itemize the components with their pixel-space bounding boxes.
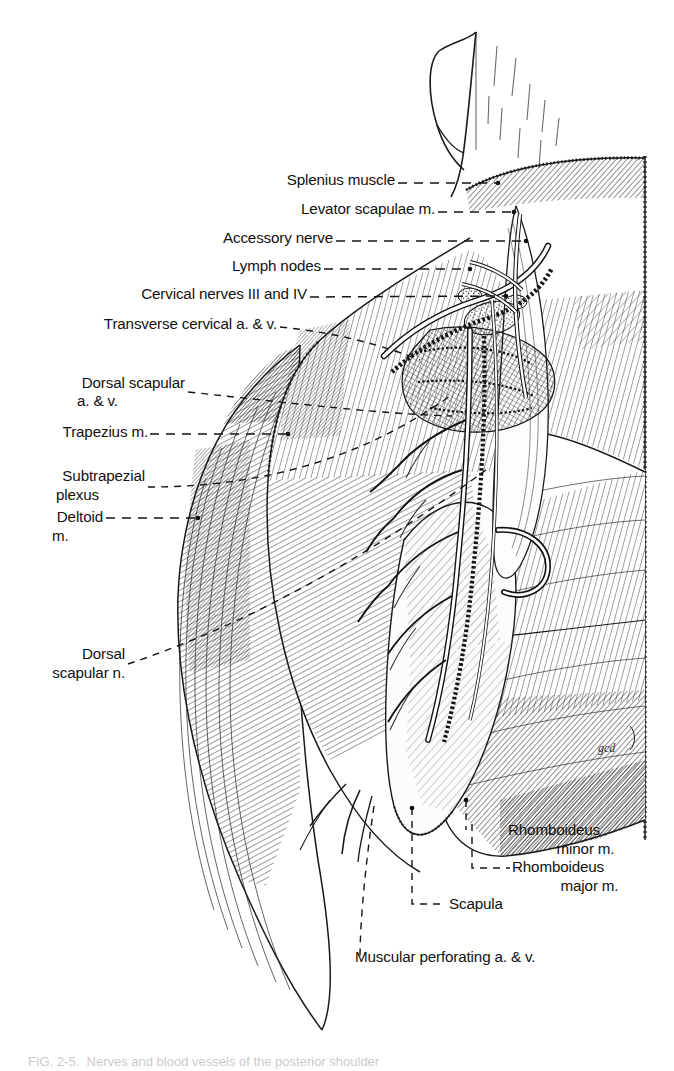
label-deltoid-sub: m. (52, 527, 112, 545)
figure-caption: FIG. 2-5. Nerves and blood vessels of th… (28, 1054, 648, 1069)
label-rhomboideus-major-sub: major m. (512, 877, 667, 895)
label-scapula: Scapula (449, 895, 569, 913)
label-trapezius: Trapezius m. (10, 423, 148, 441)
label-rhomboideus-minor-sub: minor m. (508, 840, 663, 858)
label-cervical-nerves: Cervical nerves III and IV (10, 285, 307, 303)
label-subtrapezial-plexus: Subtrapezial (10, 467, 145, 485)
label-splenius-muscle: Splenius muscle (40, 171, 395, 189)
label-dorsal-scapular-av-sub: a. & v. (10, 392, 185, 410)
label-muscular-perforating: Muscular perforating a. & v. (355, 948, 655, 966)
label-dorsal-scapular-n: Dorsal (10, 645, 125, 663)
label-subtrapezial-plexus-sub: plexus (10, 486, 145, 504)
label-accessory-nerve: Accessory nerve (40, 229, 333, 247)
label-dorsal-scapular-av: Dorsal scapular (10, 374, 185, 392)
label-rhomboideus-minor: Rhomboideus (508, 821, 668, 839)
label-transverse-cervical: Transverse cervical a. & v. (6, 315, 277, 333)
label-rhomboideus-major: Rhomboideus (512, 858, 672, 876)
svg-text:gcd: gcd (598, 741, 616, 755)
label-levator-scapulae: Levator scapulae m. (40, 200, 435, 218)
label-deltoid: Deltoid (10, 508, 103, 526)
label-lymph-nodes: Lymph nodes (40, 257, 321, 275)
label-dorsal-scapular-n-sub: scapular n. (10, 664, 125, 682)
